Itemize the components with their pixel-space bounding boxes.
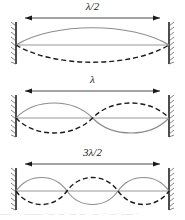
panel-second-harmonic: λ <box>0 73 185 146</box>
right-wall-2 <box>169 95 174 137</box>
wavelength-label-1: λ/2 <box>0 0 185 12</box>
clipped-caption: —— · · · ——— ··—··— · —· —· · — · ·· —··… <box>0 212 185 220</box>
dimension-line-2 <box>25 89 160 94</box>
right-wall-3 <box>169 168 174 210</box>
left-wall-1 <box>11 22 16 64</box>
dimension-line-3 <box>25 162 160 167</box>
clipped-caption-text: —— · · · ——— ··—··— · —· —· · — · ·· —··… <box>0 212 185 216</box>
panel-third-harmonic: 3λ/2 <box>0 146 185 219</box>
panel-first-harmonic: λ/2 <box>0 0 185 73</box>
left-wall-3 <box>11 168 16 210</box>
right-wall-1 <box>169 22 174 64</box>
dashed-wave-1 <box>16 45 169 62</box>
dimension-line-1 <box>25 16 160 21</box>
standing-wave-diagram: λ/2 <box>0 0 185 220</box>
wavelength-label-3: 3λ/2 <box>0 146 185 158</box>
wavelength-label-2: λ <box>0 73 185 85</box>
solid-wave-1 <box>16 28 169 45</box>
left-wall-2 <box>11 95 16 137</box>
